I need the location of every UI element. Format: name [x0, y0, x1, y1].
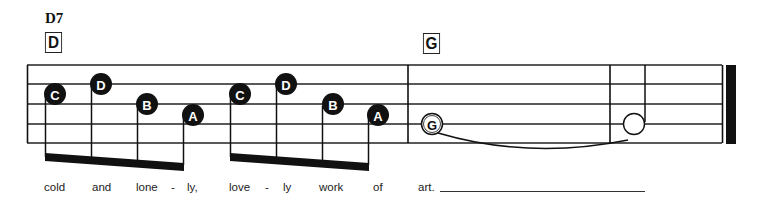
- beam-1: [45, 153, 184, 171]
- note-d-2: D: [275, 73, 297, 95]
- note-c-2: C: [229, 83, 251, 105]
- svg-text:A: A: [188, 109, 198, 124]
- svg-text:B: B: [328, 98, 337, 113]
- note-a-2: A: [367, 104, 389, 126]
- lyric-hyphen-2: -: [265, 181, 269, 193]
- beam-2: [230, 153, 369, 171]
- note-c-1: C: [44, 83, 66, 105]
- note-b-2: B: [322, 93, 344, 115]
- note-g-whole: G: [422, 114, 443, 135]
- note-d-1: D: [90, 73, 112, 95]
- lyric-cold: cold: [44, 181, 65, 193]
- music-staff: C D B A C D B A G: [0, 0, 761, 204]
- lyric-extender-line: [440, 191, 645, 192]
- lyric-lone: lone: [136, 181, 158, 193]
- svg-text:G: G: [427, 118, 437, 133]
- svg-text:D: D: [281, 78, 290, 93]
- svg-text:D: D: [96, 78, 105, 93]
- svg-text:C: C: [235, 88, 245, 103]
- staff-lines: [27, 65, 722, 143]
- lyric-art: art.: [418, 181, 435, 193]
- lyric-ly-2: ly: [283, 181, 291, 193]
- lyric-work: work: [319, 181, 343, 193]
- note-a-1: A: [182, 104, 204, 126]
- svg-text:A: A: [373, 109, 383, 124]
- lyric-love: love: [229, 181, 250, 193]
- lyric-ly-1: ly,: [187, 181, 198, 193]
- lyric-hyphen-1: -: [171, 181, 175, 193]
- tie: [438, 133, 628, 149]
- note-half-tied: [624, 114, 645, 135]
- lyric-of: of: [373, 181, 383, 193]
- final-barline: [726, 65, 736, 144]
- svg-text:B: B: [142, 98, 151, 113]
- lyric-and: and: [92, 181, 111, 193]
- svg-text:C: C: [50, 88, 60, 103]
- note-b-1: B: [136, 93, 158, 115]
- stems: [46, 65, 646, 165]
